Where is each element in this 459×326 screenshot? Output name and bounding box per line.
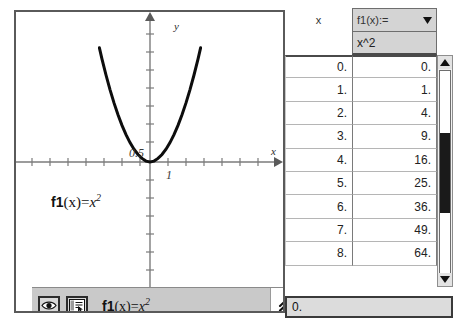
eye-icon-button[interactable] <box>38 296 60 314</box>
graph-function-label[interactable]: f1(x)=x2 <box>51 192 101 211</box>
table-row[interactable]: 0. 0. <box>285 55 437 78</box>
cell-x[interactable]: 2. <box>285 102 352 125</box>
entry-function-exponent: 2 <box>145 296 150 307</box>
attributes-icon <box>69 299 85 312</box>
table-row[interactable]: 6. 36. <box>285 195 437 218</box>
function-exponent: 2 <box>96 192 101 203</box>
table-row[interactable]: 2. 4. <box>285 102 437 125</box>
formula-cell-x[interactable] <box>285 32 352 55</box>
scroll-down-icon <box>440 276 450 283</box>
column-header-f1-label: f1(x):= <box>357 14 388 26</box>
x-tick-label: 1 <box>166 168 172 183</box>
expand-collapse-button[interactable] <box>270 288 285 313</box>
column-header-x[interactable]: x <box>285 8 352 32</box>
cell-f1[interactable]: 4. <box>352 102 437 125</box>
x-axis-label: x <box>271 145 276 157</box>
cell-x[interactable]: 1. <box>285 78 352 101</box>
graph-pane[interactable]: y x 0.5 1 f1(x)=x2 <box>14 10 285 313</box>
cell-x[interactable]: 4. <box>285 149 352 172</box>
table-row[interactable]: 5. 25. <box>285 172 437 195</box>
table-pane[interactable]: x f1(x):= x^2 0. 0. 1. 1. <box>285 8 453 313</box>
table-entry-bar[interactable]: 0. <box>285 296 453 318</box>
table-row[interactable]: 7. 49. <box>285 219 437 242</box>
calculator-screen: y x 0.5 1 f1(x)=x2 <box>0 0 459 326</box>
cell-f1[interactable]: 49. <box>352 219 437 242</box>
table-header-row: x f1(x):= <box>285 8 437 32</box>
eye-icon <box>41 300 57 311</box>
cell-x[interactable]: 5. <box>285 172 352 195</box>
attributes-icon-button[interactable] <box>66 296 88 314</box>
column-header-f1[interactable]: f1(x):= <box>352 8 437 32</box>
table-row[interactable]: 1. 1. <box>285 78 437 101</box>
scrollbar-track[interactable] <box>439 70 451 274</box>
table-row[interactable]: 4. 16. <box>285 149 437 172</box>
scroll-up-icon <box>440 59 450 66</box>
graph-entry-bar[interactable]: f1(x)=x2 <box>32 287 285 313</box>
table-row[interactable]: 8. 64. <box>285 242 437 265</box>
cell-x[interactable]: 0. <box>285 55 352 78</box>
cell-f1[interactable]: 0. <box>352 55 437 78</box>
table-formula-row: x^2 <box>285 32 437 55</box>
cell-f1[interactable]: 1. <box>352 78 437 101</box>
cell-x[interactable]: 6. <box>285 195 352 218</box>
function-arg: (x)= <box>63 194 89 210</box>
scroll-up-button[interactable] <box>438 56 452 69</box>
cell-f1[interactable]: 16. <box>352 149 437 172</box>
y-axis-label: y <box>174 20 179 32</box>
cell-f1[interactable]: 9. <box>352 125 437 148</box>
cell-x[interactable]: 8. <box>285 242 352 265</box>
entry-function-name: f1 <box>102 298 114 313</box>
function-name: f1 <box>51 194 63 210</box>
cell-x[interactable]: 7. <box>285 219 352 242</box>
double-chevron-up-icon <box>278 299 285 313</box>
cell-f1[interactable]: 36. <box>352 195 437 218</box>
chevron-down-icon[interactable] <box>423 17 432 24</box>
scroll-down-button[interactable] <box>438 273 452 286</box>
cell-x[interactable]: 3. <box>285 125 352 148</box>
cell-f1[interactable]: 64. <box>352 242 437 265</box>
graph-entry-expression[interactable]: f1(x)=x2 <box>102 296 150 313</box>
spreadsheet-grid[interactable]: x f1(x):= x^2 0. 0. 1. 1. <box>285 8 437 266</box>
y-tick-label: 0.5 <box>129 146 144 161</box>
table-row[interactable]: 3. 9. <box>285 125 437 148</box>
entry-function-arg: (x)= <box>114 299 138 313</box>
graph-canvas[interactable] <box>16 12 283 311</box>
cell-f1[interactable]: 25. <box>352 172 437 195</box>
scrollbar-thumb[interactable] <box>440 133 450 213</box>
table-scrollbar[interactable] <box>437 55 453 287</box>
formula-cell-f1[interactable]: x^2 <box>352 32 437 55</box>
